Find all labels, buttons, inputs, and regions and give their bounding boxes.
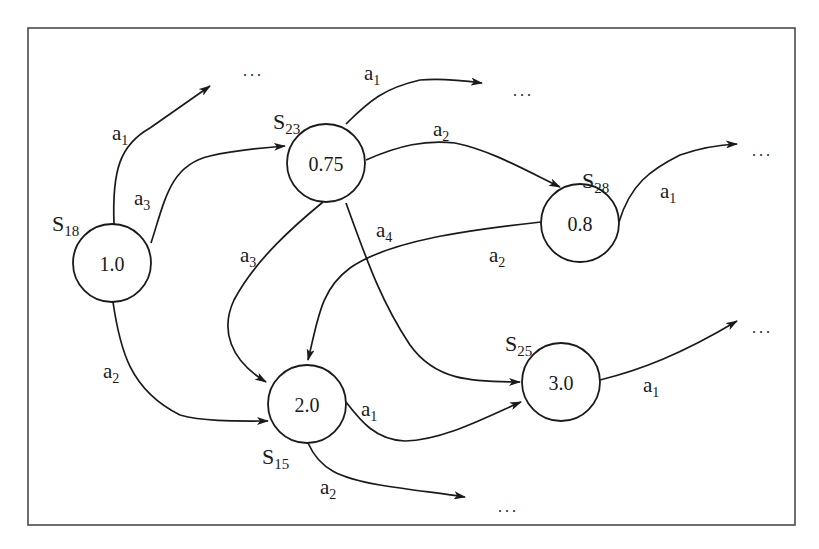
edge-s18-a3-s23 [151, 146, 285, 243]
nodes: 1.0 S18 0.75 S23 0.8 S28 2.0 S15 3.0 S25 [52, 109, 619, 472]
edge-s23-a2-s28 [366, 142, 560, 187]
edge-s23-a1-continuation [346, 79, 482, 124]
edge-s28-a1-continuation [619, 144, 737, 222]
ellipsis-middle-right: ... [752, 319, 773, 336]
action-label-s28-a2: a2 [489, 243, 505, 270]
node-s15: 2.0 S15 [262, 365, 346, 472]
edges [113, 79, 737, 497]
node-s15-value: 2.0 [295, 394, 320, 416]
action-label-s25-a1: a1 [643, 373, 659, 400]
action-label-s18-a3: a3 [134, 186, 150, 213]
action-label-s18-a1: a1 [112, 121, 128, 148]
ellipsis-top-left: ... [243, 62, 264, 79]
action-label-s15-a2: a2 [320, 475, 336, 502]
node-s23-label: S23 [273, 109, 300, 137]
edge-s25-a1-continuation [600, 321, 737, 380]
ellipsis-bottom: ... [498, 498, 519, 515]
node-s18-label: S18 [52, 211, 79, 239]
node-s15-label: S15 [262, 444, 289, 472]
node-s23-value: 0.75 [309, 153, 344, 175]
node-s18: 1.0 S18 [52, 211, 151, 302]
node-s25-label: S25 [505, 331, 532, 359]
action-label-s15-a1: a1 [361, 397, 377, 424]
node-s28: 0.8 S28 [541, 168, 619, 262]
node-s23: 0.75 S23 [273, 109, 365, 202]
action-label-s28-a1: a1 [660, 179, 676, 206]
node-s28-value: 0.8 [568, 213, 593, 235]
node-s25: 3.0 S25 [505, 331, 600, 421]
edge-s18-a1-continuation [114, 86, 210, 224]
node-s28-label: S28 [582, 168, 609, 196]
node-s18-value: 1.0 [100, 253, 125, 275]
ellipsis-top-right: ... [752, 142, 773, 159]
node-s25-value: 3.0 [549, 372, 574, 394]
action-label-s23-a3: a3 [240, 243, 256, 270]
action-label-s23-a2: a2 [433, 117, 449, 144]
edge-s18-a2-s15 [113, 302, 268, 421]
action-label-s23-a1: a1 [364, 61, 380, 88]
edge-s23-a4-s25 [346, 203, 520, 382]
action-label-s18-a2: a2 [103, 359, 119, 386]
action-label-s23-a4: a4 [376, 218, 392, 245]
ellipsis-top-middle: ... [513, 82, 534, 99]
state-transition-diagram: 1.0 S18 0.75 S23 0.8 S28 2.0 S15 3.0 S25… [0, 0, 819, 549]
action-labels: a1 a3 a2 a1 a2 a3 a4 a2 a1 a1 a2 a1 [103, 61, 676, 502]
